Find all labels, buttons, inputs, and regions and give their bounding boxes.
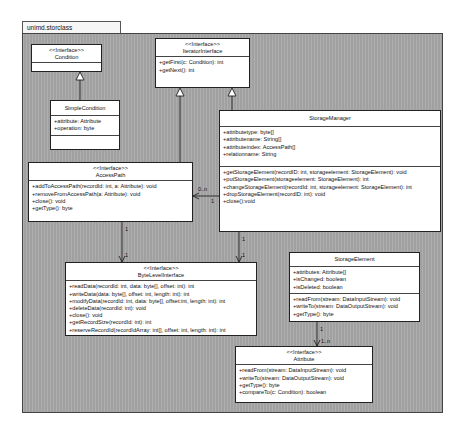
operation: +readFrom(stream: DataInputStream): void: [293, 296, 416, 303]
operation: +close(): void: [69, 312, 253, 319]
attribute: +relationname: String: [223, 151, 437, 158]
operation: +compareTo(c: Condition): boolean: [239, 389, 369, 396]
operations-compartment: +getStorageElement(recordID: int, storag…: [220, 167, 440, 207]
class-storage-manager[interactable]: StorageManager +attributetype: byte[] +a…: [219, 110, 441, 232]
operation: +writeData(data: byte[], offset: int, le…: [69, 291, 253, 298]
class-iterator-interface[interactable]: <<Interface>>IteratorInterface +getFirst…: [155, 38, 250, 88]
stereotype: <<Interface>>: [32, 47, 101, 54]
attribute: +attribute: Attribute: [54, 118, 116, 125]
multiplicity-label: 1: [125, 226, 128, 232]
class-storage-element[interactable]: StorageElement +attributes: Attribute[] …: [289, 252, 420, 322]
operation: +putStorageElement(storageelement: Stora…: [223, 176, 437, 183]
multiplicity-label: 1: [125, 252, 128, 258]
operations-compartment: [51, 136, 119, 145]
attributes-compartment: +attribute: Attribute +operation: byte: [51, 116, 119, 135]
operation: +getStorageElement(recordID: int, storag…: [223, 169, 437, 176]
operation: +getNext(): int: [159, 67, 246, 74]
empty-compartment: [32, 63, 101, 72]
operations-compartment: +addToAccessPath(recordId: int, a: Attri…: [29, 181, 192, 214]
attribute: +isDeleted: boolean: [293, 284, 416, 291]
operation: +getType(): byte: [293, 311, 416, 318]
multiplicity-label: 1: [242, 252, 245, 258]
operation: +readData(recordId: int, data: byte[], o…: [69, 283, 253, 290]
class-access-path[interactable]: <<Interface>>AccessPath +addToAccessPath…: [28, 162, 193, 222]
class-attribute[interactable]: <<Interface>>Attribute +readFrom(stream:…: [235, 346, 373, 403]
class-name: Attribute: [294, 356, 315, 362]
operation: +readFrom(stream: DataInputStream): void: [239, 367, 369, 374]
operation: +getRecordSize(recordId: int): int: [69, 319, 253, 326]
attribute: +attributetype: byte[]: [223, 129, 437, 136]
class-byte-level-interface[interactable]: <<Interface>>ByteLevelInterface +readDat…: [65, 262, 257, 336]
multiplicity-label: 1: [320, 326, 323, 332]
class-name: SimpleCondition: [65, 105, 106, 111]
operation: +removeFromAccessPath(a: Attribute): voi…: [32, 191, 189, 198]
class-condition[interactable]: <<Interface>>Condition: [31, 44, 102, 72]
class-name: Condition: [55, 54, 79, 60]
package-tab: unimd.storclass: [22, 21, 121, 33]
stereotype: <<Interface>>: [66, 265, 256, 272]
operation: +deleteData(recordId: int): void: [69, 305, 253, 312]
stereotype: <<Interface>>: [29, 165, 192, 172]
operations-compartment: +readFrom(stream: DataInputStream): void…: [290, 294, 419, 320]
operation: +changeStorageElement(recordId: int, sto…: [223, 184, 437, 191]
operations-compartment: +readFrom(stream: DataInputStream): void…: [236, 365, 372, 398]
attribute: +attributeindex: AccessPath[]: [223, 144, 437, 151]
class-name: AccessPath: [96, 172, 126, 178]
operation: +close():void: [223, 198, 437, 205]
operation: +getType(): byte: [32, 205, 189, 212]
attribute: +isChanged: boolean: [293, 276, 416, 283]
class-name: StorageManager: [309, 115, 351, 121]
operation: +modifyData(recordId: int, data: byte[],…: [69, 298, 253, 305]
package-name: unimd.storclass: [27, 24, 72, 31]
class-name: ByteLevelInterface: [138, 272, 184, 278]
multiplicity-label: 1: [211, 198, 214, 204]
multiplicity-label: 1: [242, 236, 245, 242]
operation: +reserveRecordId(recordIdArray: int[], o…: [69, 327, 253, 334]
attribute: +operation: byte: [54, 125, 116, 132]
operations-compartment: +readData(recordId: int, data: byte[], o…: [66, 281, 256, 335]
attributes-compartment: +attributes: Attribute[] +isChanged: boo…: [290, 267, 419, 294]
operation: +getType(): byte: [239, 382, 369, 389]
multiplicity-label: 0..n: [198, 186, 207, 192]
operation: +getFirst(c: Condition): int: [159, 59, 246, 66]
attributes-compartment: +attributetype: byte[] +attributename: S…: [220, 127, 440, 167]
operation: +close(): void: [32, 198, 189, 205]
attribute: +attributes: Attribute[]: [293, 269, 416, 276]
operation: +dropStorageElement(recordID: int): void: [223, 191, 437, 198]
class-name: StorageElement: [334, 256, 374, 262]
operation: +addToAccessPath(recordId: int, a: Attri…: [32, 183, 189, 190]
multiplicity-label: 1..n: [321, 338, 330, 344]
operation: +writeTo(stream: DataOutputStream): void: [293, 303, 416, 310]
stereotype: <<Interface>>: [156, 41, 249, 48]
class-name: IteratorInterface: [183, 48, 223, 54]
class-simple-condition[interactable]: SimpleCondition +attribute: Attribute +o…: [50, 100, 120, 150]
stereotype: <<Interface>>: [236, 349, 372, 356]
operations-compartment: +getFirst(c: Condition): int +getNext():…: [156, 57, 249, 75]
operation: +writeTo(stream: DataOutputStream): void: [239, 375, 369, 382]
attribute: +attributename: String[]: [223, 136, 437, 143]
